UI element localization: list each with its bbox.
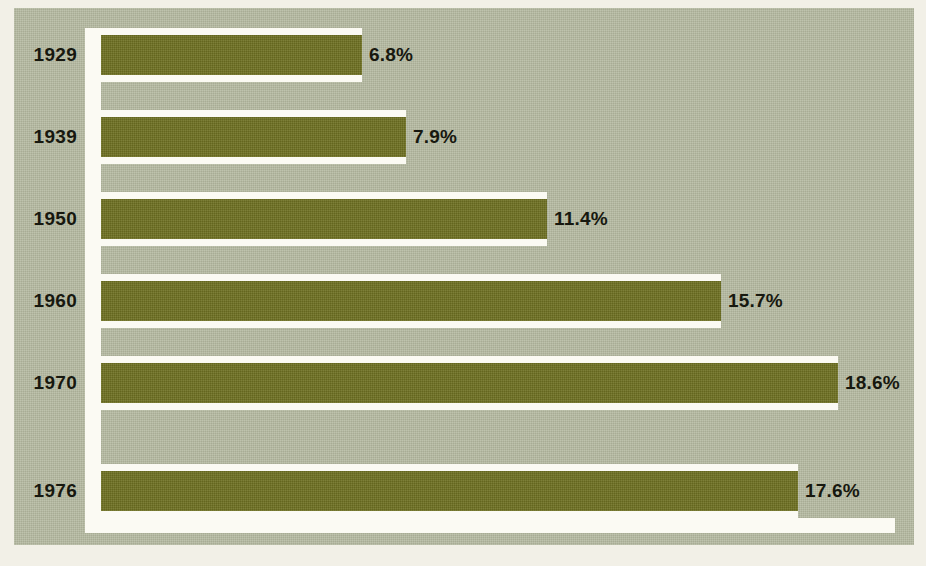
value-label-1939: 7.9% <box>413 110 457 164</box>
bar-row: 19296.8% <box>14 28 914 82</box>
value-label-1929: 6.8% <box>369 28 413 82</box>
year-label-1939: 1939 <box>14 110 77 164</box>
chart-panel: 19296.8%19397.9%195011.4%196015.7%197018… <box>14 8 914 545</box>
bar-1970 <box>101 363 838 403</box>
bar-row: 197018.6% <box>14 356 914 410</box>
bar-row: 195011.4% <box>14 192 914 246</box>
bar-row: 196015.7% <box>14 274 914 328</box>
year-label-1976: 1976 <box>14 464 77 518</box>
axis-baseline <box>85 518 895 533</box>
bar-1960 <box>101 281 721 321</box>
bar-1976 <box>101 471 798 511</box>
bar-1929 <box>101 35 362 75</box>
value-label-1976: 17.6% <box>805 464 860 518</box>
value-label-1970: 18.6% <box>845 356 900 410</box>
bar-1939 <box>101 117 406 157</box>
bar-row: 197617.6% <box>14 464 914 518</box>
value-label-1960: 15.7% <box>728 274 783 328</box>
bar-row: 19397.9% <box>14 110 914 164</box>
year-label-1970: 1970 <box>14 356 77 410</box>
bar-1950 <box>101 199 547 239</box>
year-label-1960: 1960 <box>14 274 77 328</box>
year-label-1950: 1950 <box>14 192 77 246</box>
value-label-1950: 11.4% <box>554 192 608 246</box>
year-label-1929: 1929 <box>14 28 77 82</box>
